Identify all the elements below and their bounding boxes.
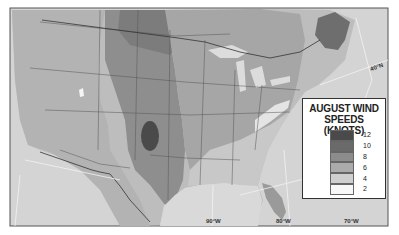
legend-label: 4 (363, 174, 367, 184)
longitude-label-70w: 70°W (344, 218, 359, 224)
legend-scale: 12 10 8 6 4 2 (330, 130, 371, 195)
legend-row-10: 10 (330, 141, 371, 152)
core-12kt (141, 121, 159, 151)
legend-label: 8 (363, 152, 367, 162)
legend-label: 6 (363, 163, 367, 173)
longitude-label-90w: 90°W (206, 218, 221, 224)
legend-row-12: 12 (330, 130, 371, 141)
legend-swatch (330, 141, 354, 152)
legend-row-6: 6 (330, 162, 371, 173)
legend-row-2: 2 (330, 184, 371, 195)
legend-swatch (330, 162, 354, 173)
legend-row-4: 4 (330, 173, 371, 184)
legend-title-line1: AUGUST WIND (303, 103, 385, 114)
legend-label: 12 (363, 130, 371, 140)
legend-row-8: 8 (330, 152, 371, 163)
legend-swatch (330, 184, 354, 195)
legend-label: 2 (363, 184, 367, 194)
legend-label: 10 (363, 141, 371, 151)
longitude-label-80w: 80°W (276, 218, 291, 224)
legend-swatch (330, 173, 354, 184)
legend-swatch (330, 130, 354, 141)
legend-swatch (330, 152, 354, 163)
legend: AUGUST WIND SPEEDS (KNOTS) 12 10 8 6 4 2 (302, 98, 386, 199)
